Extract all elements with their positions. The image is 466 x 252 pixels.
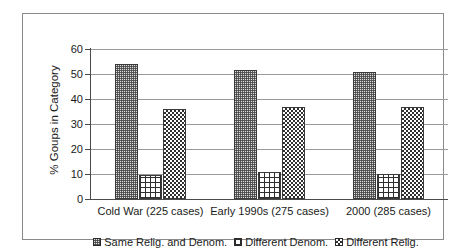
y-axis-tick-label: 30 [37, 119, 83, 130]
x-axis-category-label: Early 1990s (275 cases) [210, 204, 329, 218]
chart-legend: Same Relig. and Denom.Different Denom.Di… [45, 236, 466, 248]
bar [139, 175, 162, 199]
bar [115, 64, 138, 199]
legend-swatch-icon [234, 238, 242, 246]
legend-label: Different Relig. [346, 236, 419, 248]
y-axis-tick-label: 10 [37, 169, 83, 180]
y-axis-tick [85, 174, 91, 175]
y-axis-tick [85, 99, 91, 100]
y-axis-tick-label: 20 [37, 144, 83, 155]
y-axis-tick [85, 199, 91, 200]
x-axis-category-labels: Cold War (225 cases)Early 1990s (275 cas… [91, 204, 448, 220]
legend-swatch-icon [335, 238, 343, 246]
gridline [91, 74, 448, 75]
y-axis-tick-label: 50 [37, 69, 83, 80]
bar [163, 109, 186, 199]
bar [401, 107, 424, 200]
bar [377, 174, 400, 199]
y-axis-tick [85, 124, 91, 125]
x-axis-category-label: 2000 (285 cases) [329, 204, 448, 218]
y-axis-tick-label: 40 [37, 94, 83, 105]
gridline [91, 49, 448, 50]
legend-label: Same Relig. and Denom. [104, 236, 227, 248]
y-axis-tick-label: 0 [37, 194, 83, 205]
legend-label: Different Denom. [245, 236, 328, 248]
gridline [91, 124, 448, 125]
y-axis-tick-label: 60 [37, 44, 83, 55]
bar [353, 72, 376, 200]
y-axis-title: % Goups in Category [48, 45, 60, 195]
legend-entry: Different Relig. [335, 236, 419, 248]
legend-entry: Different Denom. [234, 236, 328, 248]
y-axis-tick [85, 149, 91, 150]
bar [282, 107, 305, 200]
plot-area [91, 49, 448, 199]
gridline [91, 149, 448, 150]
chart-frame: 0102030405060 % Goups in Category Cold W… [22, 13, 444, 240]
x-axis-category-label: Cold War (225 cases) [91, 204, 210, 218]
legend-entry: Same Relig. and Denom. [93, 236, 227, 248]
gridline [91, 99, 448, 100]
gridline [91, 199, 448, 200]
y-axis-tick [85, 49, 91, 50]
bar [258, 172, 281, 200]
bar [234, 70, 257, 199]
y-axis-tick [85, 74, 91, 75]
legend-swatch-icon [93, 238, 101, 246]
